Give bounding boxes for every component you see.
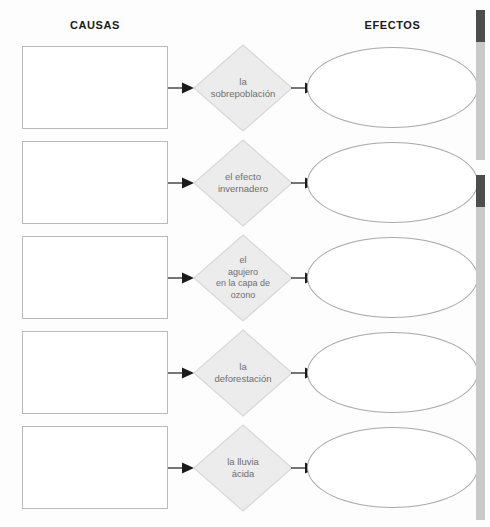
diamond-shape-icon xyxy=(193,139,293,227)
cause-effect-row: la deforestación xyxy=(0,329,490,417)
effect-ellipse[interactable] xyxy=(307,47,478,128)
arrow-cause-to-topic xyxy=(168,176,195,190)
cause-effect-row: la sobrepoblación xyxy=(0,44,490,132)
diamond-shape-icon xyxy=(193,44,293,132)
cause-box[interactable] xyxy=(22,236,168,319)
cause-effect-row: la lluvia ácida xyxy=(0,424,490,512)
arrow-cause-to-topic xyxy=(168,81,195,95)
arrow-right-icon xyxy=(168,461,195,475)
cause-effect-row: el agujero en la capa de ozono xyxy=(0,234,490,322)
cause-box[interactable] xyxy=(22,331,168,414)
column-heading-causas: CAUSAS xyxy=(22,19,168,31)
topic-diamond[interactable]: la deforestación xyxy=(193,329,293,417)
column-heading-efectos: EFECTOS xyxy=(307,19,478,31)
scan-edge-block-lower xyxy=(476,175,485,207)
diamond-shape-icon xyxy=(193,424,293,512)
cause-box[interactable] xyxy=(22,46,168,129)
topic-diamond[interactable]: el efecto invernadero xyxy=(193,139,293,227)
topic-diamond[interactable]: la sobrepoblación xyxy=(193,44,293,132)
effect-ellipse[interactable] xyxy=(307,237,478,318)
cause-box[interactable] xyxy=(22,426,168,509)
arrow-cause-to-topic xyxy=(168,366,195,380)
diamond-shape-icon xyxy=(193,329,293,417)
arrow-right-icon xyxy=(168,81,195,95)
arrow-cause-to-topic xyxy=(168,461,195,475)
diamond-shape-icon xyxy=(193,234,293,322)
scan-edge-block-upper xyxy=(476,10,485,42)
scan-edge-strip-lower xyxy=(476,175,485,520)
topic-diamond[interactable]: el agujero en la capa de ozono xyxy=(193,234,293,322)
arrow-right-icon xyxy=(168,366,195,380)
cause-box[interactable] xyxy=(22,141,168,224)
effect-ellipse[interactable] xyxy=(307,332,478,413)
topic-diamond[interactable]: la lluvia ácida xyxy=(193,424,293,512)
arrow-right-icon xyxy=(168,176,195,190)
scan-edge-artifact xyxy=(472,0,490,527)
arrow-cause-to-topic xyxy=(168,271,195,285)
arrow-right-icon xyxy=(168,271,195,285)
worksheet-canvas: CAUSAS EFECTOS la sobrepoblaciónel efect… xyxy=(0,0,490,527)
effect-ellipse[interactable] xyxy=(307,427,478,508)
effect-ellipse[interactable] xyxy=(307,142,478,223)
cause-effect-row: el efecto invernadero xyxy=(0,139,490,227)
